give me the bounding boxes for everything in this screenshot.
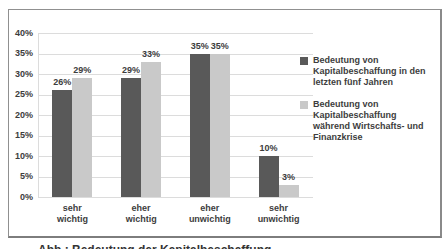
- legend: Bedeutung vonKapitalbeschaffung in denle…: [300, 55, 432, 154]
- bar-series-2: [72, 78, 92, 197]
- y-axis-tick-label: 5%: [7, 171, 33, 182]
- bar-series-1: [121, 78, 141, 197]
- y-axis-line: [38, 33, 39, 197]
- bar-value-label: 33%: [131, 49, 171, 59]
- bar-series-2: [141, 62, 161, 197]
- gridline: [38, 54, 313, 55]
- bar-series-2: [279, 185, 299, 197]
- y-axis-tick-label: 40%: [7, 28, 33, 39]
- legend-label: Bedeutung vonKapitalbeschaffung in denle…: [313, 55, 426, 88]
- y-axis-tick-label: 30%: [7, 69, 33, 80]
- y-axis-tick-label: 10%: [7, 151, 33, 162]
- gridline: [38, 33, 313, 34]
- legend-entry-2: Bedeutung vonKapitalbeschaffungwährend W…: [300, 99, 432, 143]
- bar-value-label: 10%: [249, 143, 289, 153]
- bar-value-label: 3%: [269, 172, 309, 182]
- x-axis-category-label: sehrwichtig: [38, 203, 106, 225]
- y-axis-tick-label: 25%: [7, 89, 33, 100]
- y-axis-tick-label: 0%: [7, 192, 33, 203]
- gridline: [38, 197, 313, 198]
- x-axis-category-label: eherwichtig: [107, 203, 175, 225]
- legend-swatch-icon: [300, 101, 308, 109]
- y-axis-tick-label: 20%: [7, 110, 33, 121]
- bar-value-label: 29%: [62, 65, 102, 75]
- bar-value-label: 35%: [200, 41, 240, 51]
- y-axis-tick-label: 35%: [7, 48, 33, 59]
- legend-label: Bedeutung vonKapitalbeschaffungwährend W…: [313, 99, 423, 143]
- bar-series-1: [190, 54, 210, 198]
- x-axis-category-label: sehrunwichtig: [245, 203, 313, 225]
- legend-swatch-icon: [300, 57, 308, 65]
- bar-series-1: [52, 90, 72, 197]
- legend-entry-1: Bedeutung vonKapitalbeschaffung in denle…: [300, 55, 432, 88]
- bar-series-2: [210, 54, 230, 198]
- x-axis-category-label: eherunwichtig: [176, 203, 244, 225]
- chart-stage: 0%5%10%15%20%25%30%35%40%26%29%sehrwicht…: [0, 0, 446, 249]
- y-axis-tick-label: 15%: [7, 130, 33, 141]
- figure-caption: Abb.: Bedeutung der Kapitalbeschaffung: [38, 243, 271, 249]
